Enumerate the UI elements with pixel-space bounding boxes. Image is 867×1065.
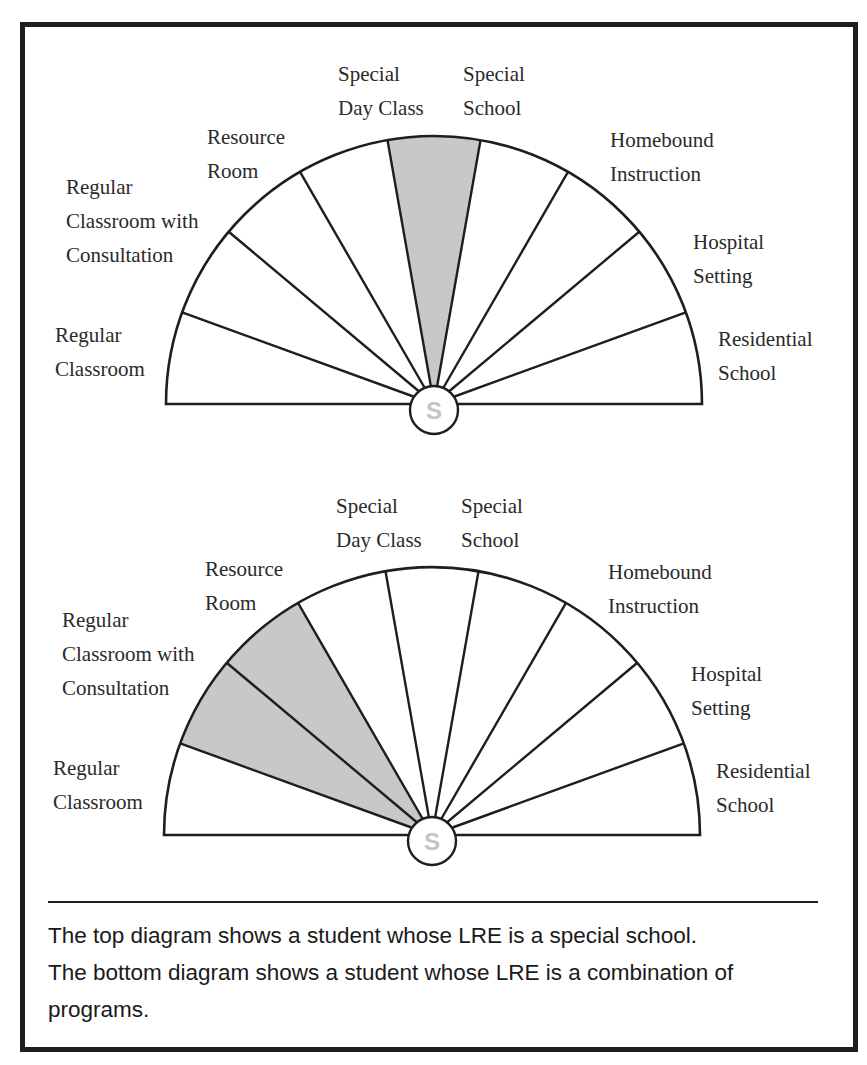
label-top-special-day-class: Special Day Class xyxy=(338,57,424,125)
student-icon-label: S xyxy=(424,828,440,855)
label-top-regular-classroom: Regular Classroom xyxy=(55,318,145,386)
label-bottom-special-day-class: Special Day Class xyxy=(336,489,422,557)
lre-diagrams: S S xyxy=(0,0,867,1065)
label-top-homebound-instruction: Homebound Instruction xyxy=(610,123,714,191)
label-top-resource-room: Resource Room xyxy=(207,120,285,188)
label-top-special-school: Special School xyxy=(463,57,525,125)
caption-line-1: The top diagram shows a student whose LR… xyxy=(48,917,838,954)
label-bottom-residential-school: Residential School xyxy=(716,754,810,822)
caption-line-2: The bottom diagram shows a student whose… xyxy=(48,954,838,1028)
label-top-residential-school: Residential School xyxy=(718,322,812,390)
label-bottom-hospital-setting: Hospital Setting xyxy=(691,657,762,725)
label-bottom-regular-classroom-consultation: Regular Classroom with Consultation xyxy=(62,603,194,705)
figure-caption: The top diagram shows a student whose LR… xyxy=(48,917,838,1028)
caption-divider xyxy=(48,901,818,903)
label-top-hospital-setting: Hospital Setting xyxy=(693,225,764,293)
label-top-regular-classroom-consultation: Regular Classroom with Consultation xyxy=(66,170,198,272)
student-icon-label: S xyxy=(426,397,442,424)
label-bottom-resource-room: Resource Room xyxy=(205,552,283,620)
label-bottom-special-school: Special School xyxy=(461,489,523,557)
label-bottom-homebound-instruction: Homebound Instruction xyxy=(608,555,712,623)
label-bottom-regular-classroom: Regular Classroom xyxy=(53,751,143,819)
